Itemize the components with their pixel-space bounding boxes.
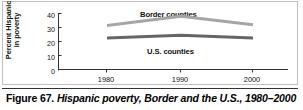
caption-text: Hispanic poverty, Border and the U.S., 1… <box>57 92 296 104</box>
figure-container: Percent Hispanic in poverty 40 30 20 10 … <box>0 0 303 110</box>
series-line-border-counties <box>107 16 253 25</box>
series-line-us-counties <box>107 35 253 38</box>
caption-divider <box>2 88 298 89</box>
caption-number: Figure 67. <box>6 92 54 104</box>
figure-caption: Figure 67. Hispanic poverty, Border and … <box>6 92 300 104</box>
plot-area <box>3 2 299 86</box>
chart-frame: Percent Hispanic in poverty 40 30 20 10 … <box>2 1 298 85</box>
